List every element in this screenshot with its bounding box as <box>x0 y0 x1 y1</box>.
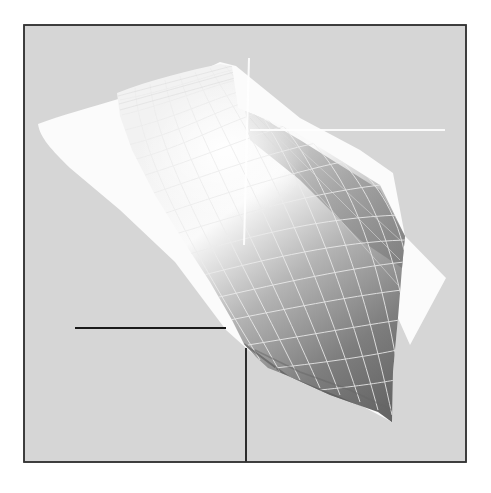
surface-figure <box>0 0 491 493</box>
